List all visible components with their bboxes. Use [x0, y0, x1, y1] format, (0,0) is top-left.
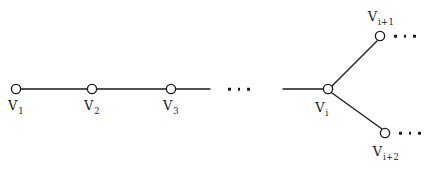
node-label-subscript: 2	[94, 106, 100, 116]
graph-node-v2	[87, 84, 96, 93]
ellipsis-dot	[413, 35, 416, 38]
ellipsis-dot	[404, 35, 407, 38]
graph-node-vi	[323, 84, 332, 93]
node-label-v2: V2	[84, 99, 100, 115]
ellipsis-dot	[238, 88, 241, 91]
ellipsis-dot	[247, 88, 250, 91]
node-label-subscript: i	[325, 108, 329, 118]
graph-diagram: V1V2V3ViVi+1Vi+2	[0, 0, 433, 177]
graph-edge	[332, 93, 382, 129]
ellipsis-dot	[228, 88, 231, 91]
node-label-v1: V1	[8, 99, 24, 115]
node-label-base: V	[84, 98, 94, 113]
node-label-v3: V3	[163, 99, 179, 115]
node-label-subscript: i+2	[382, 152, 399, 162]
ellipsis-dot	[409, 132, 412, 135]
ellipsis-upper	[394, 35, 416, 38]
ellipsis-dot	[394, 35, 397, 38]
graph-edge	[332, 41, 377, 86]
node-label-base: V	[8, 98, 18, 113]
ellipsis-lower	[399, 132, 421, 135]
node-label-vi: Vi	[315, 101, 328, 117]
ellipsis-middle	[228, 88, 250, 91]
node-label-subscript: i+1	[377, 17, 394, 27]
graph-node-v1	[11, 84, 20, 93]
diagram-canvas	[0, 0, 433, 177]
graph-node-vi1	[375, 31, 384, 40]
graph-node-v3	[166, 84, 175, 93]
graph-node-vi2	[380, 128, 389, 137]
node-label-base: V	[368, 9, 378, 24]
node-label-subscript: 3	[173, 106, 179, 116]
node-label-base: V	[163, 98, 173, 113]
node-label-vi1: Vi+1	[368, 10, 395, 26]
node-label-vi2: Vi+2	[373, 145, 400, 161]
ellipsis-dot	[399, 132, 402, 135]
node-label-subscript: 1	[18, 106, 24, 116]
ellipsis-dot	[418, 132, 421, 135]
node-label-base: V	[315, 100, 325, 115]
node-label-base: V	[373, 144, 383, 159]
